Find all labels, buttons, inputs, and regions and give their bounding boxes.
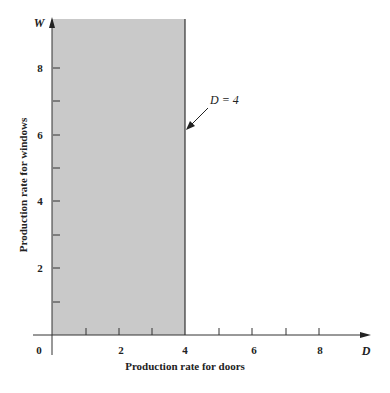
annotation-arrow-line <box>190 108 208 126</box>
y-tick-label-8: 8 <box>37 62 43 74</box>
origin-label: 0 <box>36 344 42 356</box>
feasible-region <box>52 19 185 335</box>
y-axis-variable: W <box>34 16 46 30</box>
x-tick-label-4: 4 <box>182 344 188 356</box>
x-tick-label-8: 8 <box>317 344 323 356</box>
x-tick-label-6: 6 <box>251 344 257 356</box>
y-axis-title: Production rate for windows <box>17 117 29 252</box>
annotation-text: D = 4 <box>209 93 239 107</box>
x-axis-arrow-icon <box>360 332 371 338</box>
y-tick-label-2: 2 <box>37 262 43 274</box>
chart: 8 6 4 2 0 2 4 6 8 W D Production rate fo… <box>0 0 390 393</box>
boundary-annotation: D = 4 <box>209 93 239 107</box>
x-tick-label-2: 2 <box>118 344 124 356</box>
x-axis-title: Production rate for doors <box>125 360 245 372</box>
y-tick-label-6: 6 <box>37 129 43 141</box>
y-tick-label-4: 4 <box>37 195 43 207</box>
x-axis-variable: D <box>361 344 371 358</box>
